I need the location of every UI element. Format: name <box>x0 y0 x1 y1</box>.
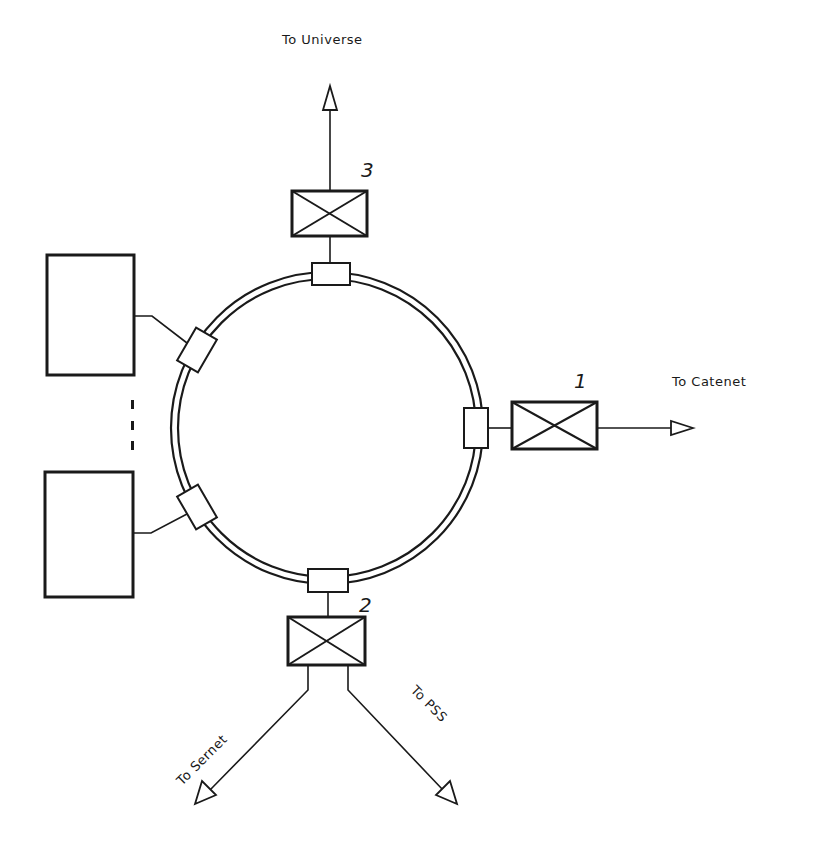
gateway-1: 1 To Catenet <box>488 369 746 449</box>
ring-port-right <box>464 408 488 448</box>
gateway-2: 2 To Sernet To PSS <box>173 592 457 804</box>
gateway-3-number: 3 <box>361 158 374 182</box>
arrow-up-icon <box>323 86 337 110</box>
label-to-catenet: To Catenet <box>671 374 746 389</box>
gateway-3: 3 To Universe <box>281 32 374 263</box>
gateway-2-number: 2 <box>359 593 372 617</box>
arrow-down-left-icon <box>195 781 216 804</box>
host-upper <box>47 255 187 375</box>
arrow-down-right-icon <box>436 781 457 804</box>
ring <box>171 272 483 584</box>
label-to-universe: To Universe <box>281 32 363 47</box>
gateway-1-number: 1 <box>574 369 587 393</box>
host-lower <box>45 472 187 597</box>
ring-port-bottom <box>308 569 348 592</box>
ring-port-top <box>312 263 350 285</box>
arrow-right-icon <box>671 421 693 435</box>
ellipsis-more-hosts <box>131 400 134 450</box>
ring-network-diagram: 3 To Universe 1 To Catenet 2 To Sernet T… <box>0 0 814 860</box>
label-to-pss: To PSS <box>407 682 450 725</box>
